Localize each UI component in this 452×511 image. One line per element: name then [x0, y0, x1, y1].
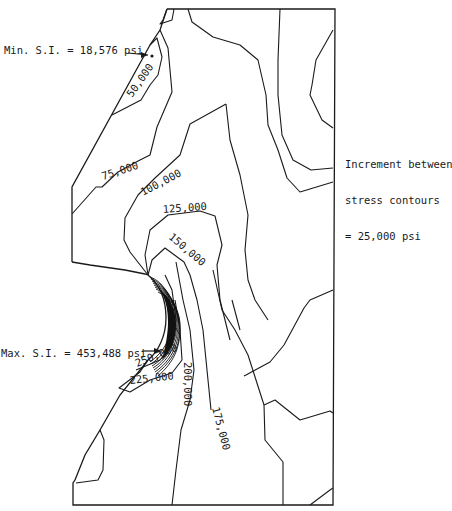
label-200000: 200,000: [182, 362, 194, 406]
label-175000: 175,000: [210, 405, 233, 451]
min-stress-annotation: Min. S.I. = 18,576 psi: [4, 44, 143, 56]
label-50000: 50,000: [124, 61, 156, 99]
increment-note: Increment between stress contours = 25,0…: [345, 134, 452, 254]
label-225000: 225,000: [129, 369, 174, 386]
increment-note-line3: = 25,000 psi: [345, 230, 452, 242]
label-100000: 100,000: [138, 166, 183, 197]
label-125000: 125,000: [162, 200, 207, 215]
label-75000: 75,000: [100, 159, 140, 182]
contour-175000: [213, 270, 283, 505]
increment-note-line2: stress contours: [345, 194, 452, 206]
contour-labels: 50,000 75,000 100,000 125,000 150,000 25…: [100, 61, 233, 451]
increment-note-line1: Increment between: [345, 158, 452, 170]
max-stress-annotation: Max. S.I. = 453,488 psi: [1, 347, 146, 359]
contour-100000: [188, 9, 333, 192]
contour-125000: [226, 104, 268, 320]
label-150000: 150,000: [167, 230, 209, 268]
